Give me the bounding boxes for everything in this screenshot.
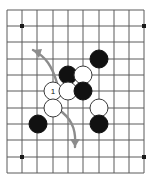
star-point-1 <box>142 24 146 28</box>
stone-black[interactable] <box>90 50 108 68</box>
stone-disc <box>90 99 108 117</box>
go-board-canvas: 1 <box>0 0 153 185</box>
stone-disc <box>90 50 108 68</box>
stone-black[interactable] <box>74 82 92 100</box>
stone-disc <box>44 99 62 117</box>
stone-white[interactable] <box>90 99 108 117</box>
stone-disc <box>90 115 108 133</box>
stone-black[interactable] <box>29 115 47 133</box>
stone-disc <box>29 115 47 133</box>
star-point-3 <box>142 155 146 159</box>
stone-white[interactable] <box>74 66 92 84</box>
stone-disc <box>74 66 92 84</box>
stone-black[interactable] <box>90 115 108 133</box>
stone-disc <box>74 82 92 100</box>
stone-white[interactable] <box>44 99 62 117</box>
go-board-diagram: 1 <box>0 0 153 185</box>
stone-move-number: 1 <box>51 87 56 96</box>
star-point-2 <box>20 155 24 159</box>
star-point-0 <box>20 24 24 28</box>
